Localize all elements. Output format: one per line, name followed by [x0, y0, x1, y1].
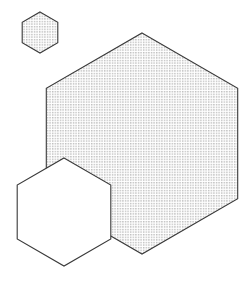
hexagon-scene-svg [0, 0, 247, 281]
drawing-canvas [0, 0, 247, 281]
